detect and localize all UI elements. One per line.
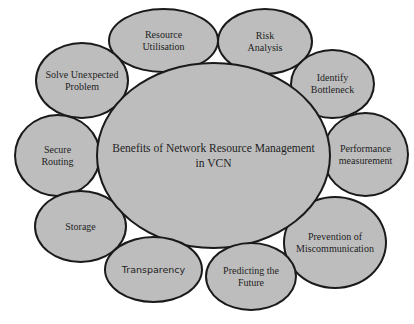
center-label: Benefits of Network Resource Management … <box>112 141 314 171</box>
node-label: Solve Unexpected Problem <box>45 69 118 93</box>
node-predicting-the-future: Predicting the Future <box>205 242 297 311</box>
node-label: Storage <box>65 221 96 233</box>
center-node: Benefits of Network Resource Management … <box>96 62 331 249</box>
node-label: Identify Bottleneck <box>311 72 354 96</box>
node-label: Predicting the Future <box>223 265 279 289</box>
node-label: Risk Analysis <box>248 30 283 54</box>
node-performance-measurement: Performance measurement <box>322 112 409 197</box>
node-label: Resource Utilisation <box>142 29 184 53</box>
node-label: Performance measurement <box>339 143 392 167</box>
node-transparency: Transparency <box>104 236 203 303</box>
node-label: Prevention of Miscommunication <box>296 231 374 255</box>
node-secure-routing: Secure Routing <box>14 114 101 197</box>
node-label: Secure Routing <box>41 144 73 168</box>
node-label: Transparency <box>122 264 185 276</box>
diagram-canvas: Resource Utilisation Risk Analysis Solve… <box>0 0 414 324</box>
